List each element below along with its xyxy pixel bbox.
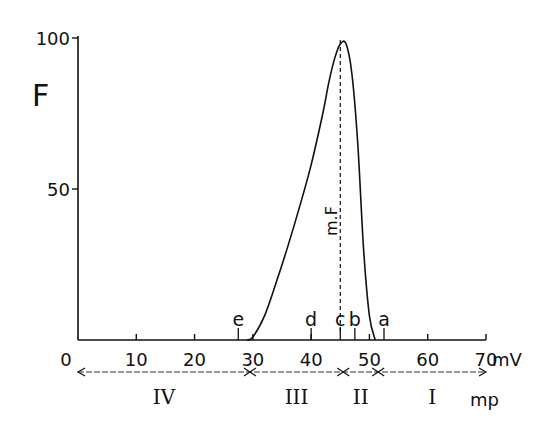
chart: 50100 010203040506070 F mV m.F edcba IVI… bbox=[0, 0, 554, 430]
marker-label-a: a bbox=[378, 308, 390, 330]
x-tick-label: 20 bbox=[183, 349, 206, 370]
x-tick-label: 30 bbox=[241, 349, 264, 370]
marker-label-b: b bbox=[349, 308, 361, 330]
axes bbox=[78, 36, 486, 340]
marker-label-d: d bbox=[305, 308, 317, 330]
zone-label-III: III bbox=[285, 385, 309, 409]
markers: edcba bbox=[232, 308, 389, 340]
zone-label-II: II bbox=[353, 385, 369, 409]
y-axis-label: F bbox=[32, 78, 49, 113]
zones: IVIIIIII bbox=[78, 368, 486, 409]
x-tick-label: 10 bbox=[125, 349, 148, 370]
x-tick-label: 0 bbox=[60, 349, 71, 370]
x-axis-unit: mV bbox=[492, 349, 523, 370]
peak-label: m.F bbox=[322, 206, 341, 236]
marker-label-e: e bbox=[232, 308, 244, 330]
zone-label-I: I bbox=[428, 385, 436, 409]
marker-label-c: c bbox=[335, 308, 345, 330]
y-tick-label: 50 bbox=[47, 179, 70, 200]
fluorescence-curve bbox=[247, 41, 375, 340]
y-ticks: 50100 bbox=[36, 28, 78, 200]
zone-unit: mp bbox=[470, 389, 499, 410]
zone-label-IV: IV bbox=[153, 385, 176, 409]
y-tick-label: 100 bbox=[36, 28, 70, 49]
x-tick-label: 40 bbox=[300, 349, 323, 370]
x-tick-label: 50 bbox=[358, 349, 381, 370]
x-tick-label: 60 bbox=[416, 349, 439, 370]
